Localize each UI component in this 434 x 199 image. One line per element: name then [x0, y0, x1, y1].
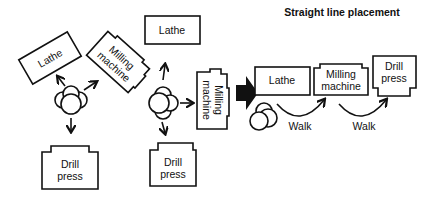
machine-milling: Milling machine — [86, 29, 153, 94]
milling-label-line2: machine — [201, 80, 213, 120]
arrow-to-lathe — [58, 77, 65, 86]
machine-lathe: Lathe — [255, 67, 310, 95]
walk-arrow-1 — [277, 100, 324, 116]
milling-label-line2: machine — [321, 80, 361, 92]
layout-compact: Lathe Milling machine Drill press — [145, 16, 229, 186]
drill-label-line1: Drill — [164, 156, 182, 168]
operator-icon — [250, 103, 277, 130]
diagram-canvas: Lathe Milling machine Drill press Lathe — [0, 0, 434, 199]
drill-label-line2: press — [57, 170, 83, 182]
layout-straight-line: Straight line placement Lathe Milling ma… — [250, 6, 416, 132]
arrow-to-lathe — [163, 65, 165, 80]
title-straight-line: Straight line placement — [284, 6, 400, 18]
arrow-to-drill — [162, 122, 165, 133]
machine-drill-press: Drill press — [373, 56, 416, 96]
drill-label-line2: press — [381, 72, 407, 84]
machine-milling: Milling machine — [197, 69, 229, 129]
lathe-label: Lathe — [269, 74, 295, 86]
operator-icon — [55, 86, 87, 114]
drill-label-line1: Drill — [385, 60, 403, 72]
drill-label-line2: press — [160, 168, 186, 180]
machine-drill-press: Drill press — [42, 146, 98, 189]
walk-label-1: Walk — [289, 120, 313, 132]
lathe-label: Lathe — [159, 24, 185, 36]
walk-arrow-2 — [339, 100, 386, 116]
milling-label-line1: Milling — [213, 85, 225, 115]
machine-drill-press: Drill press — [150, 143, 196, 186]
machine-lathe: Lathe — [19, 32, 81, 84]
walk-label-2: Walk — [353, 120, 377, 132]
machine-lathe: Lathe — [145, 16, 200, 44]
milling-label-line1: Milling — [326, 68, 356, 80]
operator-icon — [149, 87, 178, 119]
drill-label-line1: Drill — [61, 158, 79, 170]
arrow-to-milling — [84, 82, 96, 90]
machine-milling: Milling machine — [314, 64, 368, 95]
layout-triangular: Lathe Milling machine Drill press — [19, 29, 153, 189]
